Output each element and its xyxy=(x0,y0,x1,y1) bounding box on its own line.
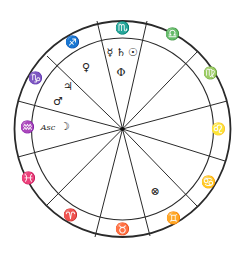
cusp-line-libra-virgo xyxy=(123,51,199,129)
leo-icon: ♌ xyxy=(211,122,226,136)
pisces-icon: ♓ xyxy=(21,171,36,185)
scorpio-icon: ♏ xyxy=(115,21,130,35)
cusp-line-taurus-aries xyxy=(95,129,123,237)
aquarius-icon: ♒ xyxy=(20,120,35,134)
libra-icon: ♎ xyxy=(165,27,180,41)
virgo-icon: ♍ xyxy=(203,66,218,80)
mercury-icon: ☿ xyxy=(107,46,114,59)
mars-icon: ♂ xyxy=(53,95,63,108)
cusp-line-scorpio-libra xyxy=(123,21,148,129)
sagittarius-icon: ♐ xyxy=(65,35,80,49)
gemini-icon: ♊ xyxy=(166,211,181,225)
aries-icon: ♈ xyxy=(63,208,78,222)
taurus-icon: ♉ xyxy=(115,222,130,236)
moon-icon: ☽ xyxy=(60,120,70,133)
cusp-line-aries-pisces xyxy=(46,129,123,206)
capricorn-icon: ♑ xyxy=(28,71,43,85)
jupiter-icon: ♃ xyxy=(63,80,73,93)
ascendant-label: Asc xyxy=(40,123,56,132)
planet-glyphs: ☿♄☉Φ♀♃♂☽⊗ xyxy=(53,46,160,198)
saturn-icon: ♄ xyxy=(116,46,126,59)
cancer-icon: ♋ xyxy=(201,175,216,189)
part-of-fortune-icon: ⊗ xyxy=(150,185,159,198)
astrological-chart: ♏♎♍♌♋♊♉♈♓♒♑♐ ☿♄☉Φ♀♃♂☽⊗ Asc xyxy=(0,0,243,254)
venus-icon: ♀ xyxy=(82,61,90,74)
earth-icon: Φ xyxy=(116,66,125,79)
center-hub xyxy=(121,127,125,131)
sun-icon: ☉ xyxy=(128,46,138,59)
